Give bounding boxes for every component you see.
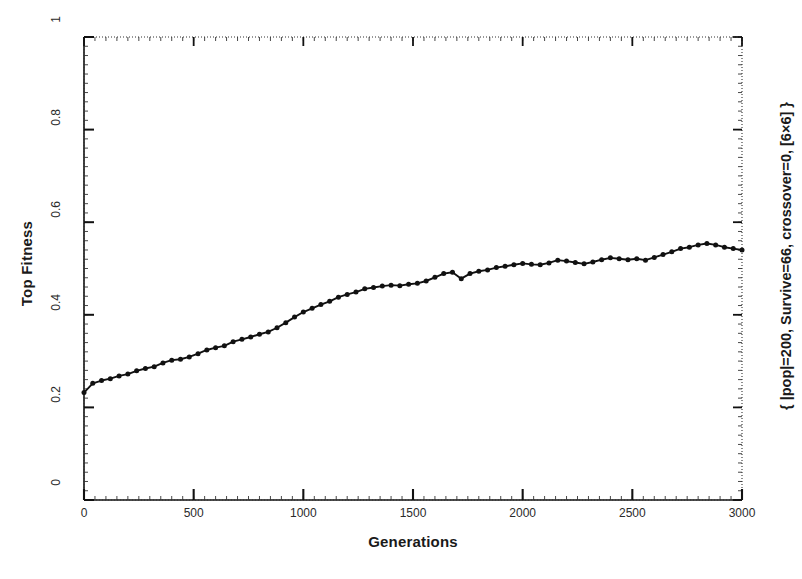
y-tick-label: 0.8 [49,109,63,149]
plot-frame [84,37,742,500]
y-tick-label: 1 [49,16,63,56]
x-axis-title: Generations [313,533,513,550]
data-series-markers [82,241,745,395]
x-tick-label: 1000 [273,506,333,520]
x-tick-label: 1500 [383,506,443,520]
y-tick-label: 0.4 [49,294,63,334]
x-tick-label: 0 [54,506,114,520]
parameters-annotation: { |pop|=200, Survive=66, crossover=0, [6… [778,56,794,456]
chart-figure: Top Fitness Generations { |pop|=200, Sur… [0,0,802,579]
y-tick-label: 0 [49,479,63,519]
y-tick-label: 0.2 [49,386,63,426]
x-tick-label: 3000 [712,506,772,520]
data-series-line [84,244,742,393]
x-tick-label: 2500 [602,506,662,520]
chart-plot-area [0,0,802,579]
x-tick-label: 500 [164,506,224,520]
y-tick-label: 0.6 [49,201,63,241]
x-tick-label: 2000 [493,506,553,520]
y-axis-title: Top Fitness [18,194,35,334]
axis-ticks [84,37,742,500]
